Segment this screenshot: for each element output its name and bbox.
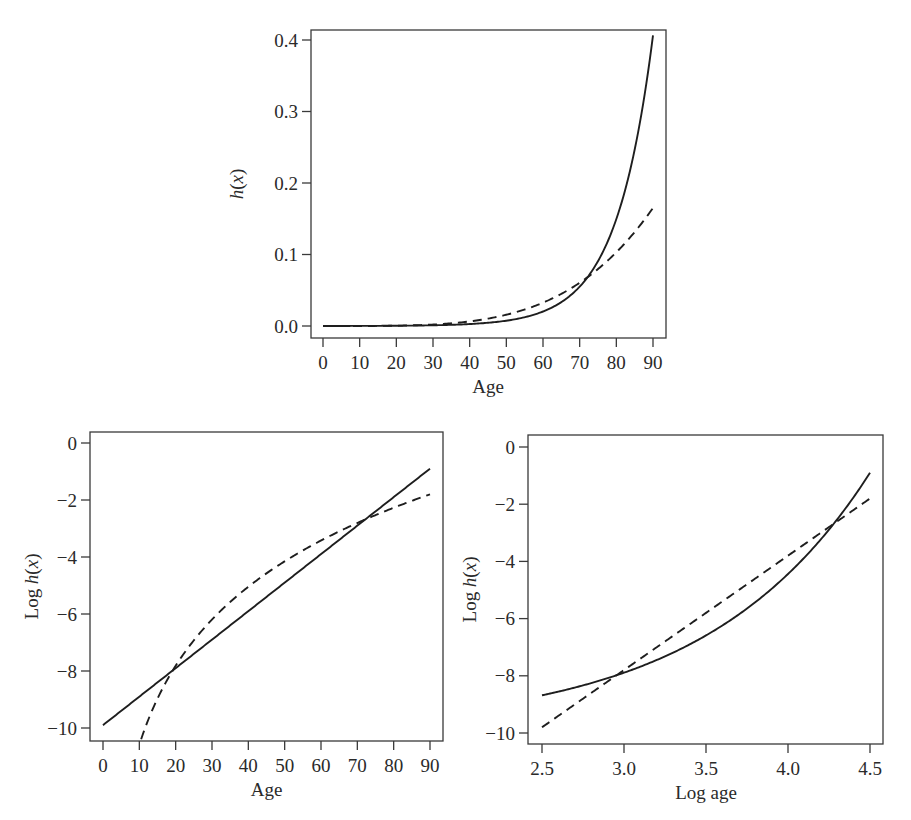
y-tick-label: 0.4 [274,30,298,51]
x-tick-label: 4.0 [776,758,800,779]
x-tick-label: 60 [312,755,331,776]
x-tick-label: 90 [421,755,440,776]
y-tick-label: −2 [495,494,515,515]
panel-log-hazard-log-age: 2.53.03.54.04.5 0−2−4−6−8−10 Log age Log… [459,435,883,803]
y-tick-label: 0.3 [274,101,298,122]
plot-area [323,35,653,326]
x-tick-label: 70 [348,755,367,776]
y-tick-label: −6 [57,604,77,625]
x-tick-label: 3.5 [694,758,718,779]
x-tick-label: 50 [275,755,294,776]
y-tick-label: −6 [495,608,515,629]
x-tick-label: 2.5 [530,758,554,779]
x-tick-label: 3.0 [612,758,636,779]
x-axis: 0102030405060708090 [98,741,439,776]
y-tick-label: 0.2 [274,173,298,194]
x-tick-label: 80 [607,352,626,373]
x-tick-label: 50 [497,352,516,373]
y-axis-label: Log h(x) [21,554,43,620]
y-tick-label: 0 [68,433,78,454]
x-tick-label: 30 [424,352,443,373]
weibull-dashed-curve [141,494,430,739]
y-tick-label: −8 [57,661,77,682]
weibull-dashed-curve [323,208,653,326]
x-axis: 2.53.03.54.04.5 [530,744,882,779]
x-tick-label: 0 [98,755,108,776]
y-axis: 0−2−4−6−8−10 [485,437,528,744]
gompertz-solid-curve [542,473,870,696]
plot-area [103,469,430,740]
x-axis-label: Age [251,779,283,800]
y-tick-label: −2 [57,490,77,511]
y-tick-label: 0.1 [274,244,298,265]
gompertz-solid-curve [323,35,653,326]
y-tick-label: −4 [495,551,516,572]
x-tick-label: 10 [350,352,369,373]
y-axis-label: h(x) [226,169,248,200]
x-tick-label: 80 [384,755,403,776]
plot-area [542,473,870,728]
panel-log-hazard-age: 0102030405060708090 0−2−4−6−8−10 Age Log… [21,432,443,800]
y-axis: 0−2−4−6−8−10 [47,433,90,739]
x-tick-label: 40 [460,352,479,373]
x-axis: 0102030405060708090 [318,338,662,373]
plot-frame [311,30,666,338]
x-tick-label: 20 [166,755,185,776]
gompertz-solid-curve [103,469,430,726]
plot-frame [528,435,883,744]
y-tick-label: −10 [485,723,515,744]
x-tick-label: 60 [534,352,553,373]
y-tick-label: −10 [47,718,77,739]
y-axis-label: Log h(x) [459,557,481,623]
y-tick-label: −4 [57,547,78,568]
x-tick-label: 20 [387,352,406,373]
x-tick-label: 10 [130,755,149,776]
y-tick-label: −8 [495,665,515,686]
y-tick-label: 0.0 [274,316,298,337]
x-tick-label: 40 [239,755,258,776]
weibull-dashed-curve [542,498,870,727]
figure-canvas: 0102030405060708090 0.00.10.20.30.4 Age … [0,0,911,820]
x-tick-label: 4.5 [858,758,882,779]
x-tick-label: 0 [318,352,328,373]
x-axis-label: Age [472,376,504,397]
x-axis-label: Log age [675,782,737,803]
x-tick-label: 90 [644,352,663,373]
y-axis: 0.00.10.20.30.4 [274,30,311,337]
y-tick-label: 0 [506,437,516,458]
x-tick-label: 30 [203,755,222,776]
panel-hazard: 0102030405060708090 0.00.10.20.30.4 Age … [226,30,666,398]
x-tick-label: 70 [570,352,589,373]
